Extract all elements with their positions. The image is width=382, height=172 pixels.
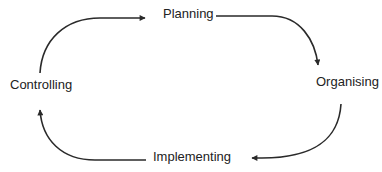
node-planning: Planning xyxy=(163,6,214,21)
arrow-planning-to-organising xyxy=(216,16,318,65)
node-implementing: Implementing xyxy=(153,149,231,164)
arrow-controlling-to-planning xyxy=(40,18,145,73)
arrow-organising-to-implementing xyxy=(252,104,341,158)
node-controlling: Controlling xyxy=(10,77,72,92)
arrow-implementing-to-controlling xyxy=(40,110,146,160)
node-organising: Organising xyxy=(316,74,379,89)
